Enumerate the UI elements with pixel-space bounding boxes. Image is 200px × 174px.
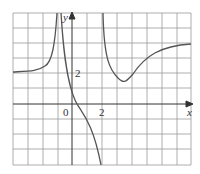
middle-branch [61, 13, 101, 165]
grid [13, 13, 191, 165]
x-tick-2: 2 [99, 107, 105, 118]
y-tick-2: 2 [75, 68, 81, 79]
origin-label: 0 [63, 107, 69, 118]
left-branch [13, 13, 57, 72]
y-axis-label: y [63, 12, 68, 23]
graph [0, 0, 200, 174]
axes [13, 12, 193, 165]
x-axis-label: x [187, 107, 192, 118]
